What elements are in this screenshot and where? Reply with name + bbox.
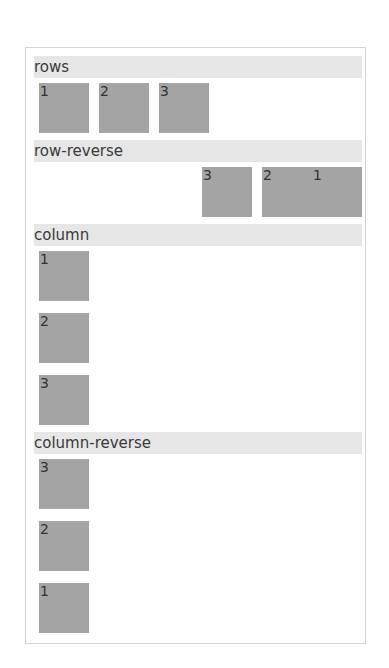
flex-item: 3 <box>39 459 89 509</box>
flex-container-column: 1 2 3 <box>34 246 362 437</box>
section-column: column 1 2 3 <box>34 224 362 437</box>
flex-container-column-reverse: 1 2 3 <box>34 454 362 645</box>
section-rows: rows 1 2 3 <box>34 56 362 133</box>
section-label: row-reverse <box>34 140 362 162</box>
section-row-reverse: row-reverse 1 2 3 <box>34 140 362 217</box>
flex-item: 2 <box>262 167 312 217</box>
flex-item: 2 <box>99 83 149 133</box>
flex-item: 1 <box>39 251 89 301</box>
flex-container-row: 1 2 3 <box>34 78 362 133</box>
demo-container: rows 1 2 3 row-reverse 1 2 3 column 1 2 … <box>25 47 366 644</box>
flex-item: 1 <box>312 167 362 217</box>
flex-item: 1 <box>39 583 89 633</box>
flex-container-row-reverse: 1 2 3 <box>34 162 362 217</box>
flex-item: 3 <box>202 167 252 217</box>
flex-item: 3 <box>39 375 89 425</box>
flex-item: 1 <box>39 83 89 133</box>
section-column-reverse: column-reverse 1 2 3 <box>34 432 362 645</box>
flex-item: 3 <box>159 83 209 133</box>
flex-item: 2 <box>39 521 89 571</box>
flex-item: 2 <box>39 313 89 363</box>
section-label: column <box>34 224 362 246</box>
section-label: rows <box>34 56 362 78</box>
section-label: column-reverse <box>34 432 362 454</box>
